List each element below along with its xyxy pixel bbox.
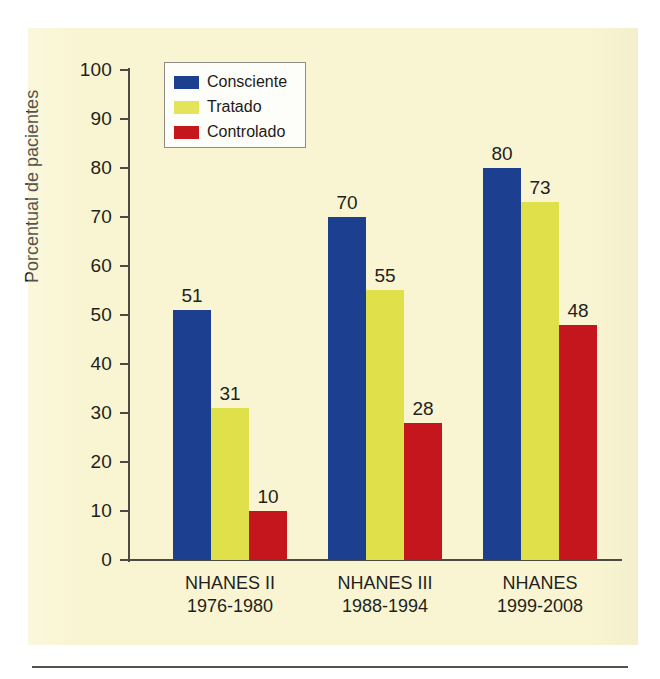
bar-controlado-nhanes-ii[interactable] (249, 511, 287, 560)
x-category-line1: NHANES III (315, 572, 455, 595)
bar-tratado-nhanes-ii[interactable] (211, 408, 249, 560)
bar-value-tratado-nhanes-iii: 55 (361, 265, 409, 287)
y-tick-10 (120, 510, 129, 512)
y-tick-40 (120, 363, 129, 365)
y-tick-label-80: 80 (66, 157, 112, 179)
x-category-line2: 1988-1994 (315, 595, 455, 618)
y-tick-label-0: 0 (66, 549, 112, 571)
y-tick-label-60: 60 (66, 255, 112, 277)
page-divider-rule (32, 666, 628, 668)
y-tick-label-100: 100 (66, 59, 112, 81)
bar-value-consciente-nhanes-iii: 70 (323, 192, 371, 214)
y-tick-label-40: 40 (66, 353, 112, 375)
x-category-line2: 1976-1980 (160, 595, 300, 618)
y-tick-80 (120, 167, 129, 169)
bar-value-tratado-nhanes-ii: 31 (206, 383, 254, 405)
y-tick-label-50: 50 (66, 304, 112, 326)
x-category-label-nhanes-1999-2008: NHANES 1999-2008 (470, 572, 610, 618)
y-tick-0 (120, 559, 129, 561)
y-tick-label-30: 30 (66, 402, 112, 424)
x-category-line1: NHANES (470, 572, 610, 595)
legend-item-tratado[interactable]: Tratado (174, 95, 297, 119)
bar-value-controlado-nhanes-iii: 28 (399, 398, 447, 420)
bar-value-controlado-nhanes-ii: 10 (244, 486, 292, 508)
y-tick-50 (120, 314, 129, 316)
bar-tratado-nhanes-iii[interactable] (366, 290, 404, 560)
y-axis-title: Porcentual de pacientes (22, 3, 43, 283)
chart-legend: Consciente Tratado Controlado (164, 62, 306, 148)
bar-consciente-nhanes-1999-2008[interactable] (483, 168, 521, 560)
legend-label-consciente: Consciente (207, 74, 287, 90)
y-tick-90 (120, 118, 129, 120)
bar-consciente-nhanes-ii[interactable] (173, 310, 211, 560)
bar-tratado-nhanes-1999-2008[interactable] (521, 202, 559, 560)
bar-value-consciente-nhanes-ii: 51 (168, 285, 216, 307)
bar-value-controlado-nhanes-1999-2008: 48 (554, 300, 602, 322)
legend-item-consciente[interactable]: Consciente (174, 70, 297, 94)
y-tick-label-90: 90 (66, 108, 112, 130)
x-category-label-nhanes-ii: NHANES II 1976-1980 (160, 572, 300, 618)
legend-label-tratado: Tratado (207, 99, 262, 115)
y-tick-20 (120, 461, 129, 463)
y-tick-label-70: 70 (66, 206, 112, 228)
y-tick-100 (120, 69, 129, 71)
bar-controlado-nhanes-1999-2008[interactable] (559, 325, 597, 560)
x-category-line1: NHANES II (160, 572, 300, 595)
x-category-line2: 1999-2008 (470, 595, 610, 618)
bar-value-consciente-nhanes-1999-2008: 80 (478, 143, 526, 165)
y-tick-70 (120, 216, 129, 218)
y-tick-label-10: 10 (66, 500, 112, 522)
legend-label-controlado: Controlado (207, 124, 285, 140)
scanned-page: Porcentual de pacientes 100 90 80 70 60 … (0, 0, 660, 679)
legend-swatch-red-icon (174, 126, 199, 139)
y-tick-60 (120, 265, 129, 267)
bar-controlado-nhanes-iii[interactable] (404, 423, 442, 560)
x-category-label-nhanes-iii: NHANES III 1988-1994 (315, 572, 455, 618)
y-tick-30 (120, 412, 129, 414)
legend-swatch-blue-icon (174, 76, 199, 89)
legend-item-controlado[interactable]: Controlado (174, 120, 297, 144)
bar-value-tratado-nhanes-1999-2008: 73 (516, 177, 564, 199)
y-tick-label-20: 20 (66, 451, 112, 473)
legend-swatch-yellow-icon (174, 101, 199, 114)
